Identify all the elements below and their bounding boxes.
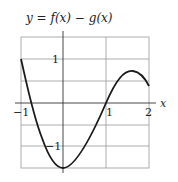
grid	[21, 37, 149, 168]
axes	[15, 31, 156, 173]
x-tick-1: 1	[106, 106, 113, 119]
chart: y = f(x) − g(x) x −1 1 2 1 −1	[0, 0, 178, 182]
x-tick-neg1: −1	[13, 106, 29, 119]
x-tick-2: 2	[145, 106, 152, 119]
curve-f-minus-g	[21, 59, 149, 168]
y-tick-neg1: −1	[45, 140, 61, 153]
x-axis-label: x	[160, 97, 167, 110]
chart-title: y = f(x) − g(x)	[25, 11, 113, 25]
plot-frame	[21, 37, 149, 168]
y-tick-1: 1	[52, 53, 59, 66]
